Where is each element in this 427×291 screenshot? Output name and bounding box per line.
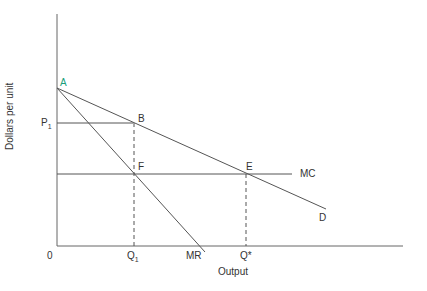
mc-label: MC	[300, 169, 316, 179]
y-axis-label: Dollars per unit	[4, 83, 15, 150]
point-b-label: B	[138, 114, 145, 124]
point-a-label: A	[60, 78, 67, 88]
demand-curve	[57, 88, 326, 209]
p1-tick-label: P1	[41, 118, 52, 130]
point-f-label: F	[138, 162, 144, 172]
mr-curve	[57, 88, 205, 252]
qstar-tick-label: Q*	[240, 251, 252, 261]
mr-label: MR	[186, 251, 202, 261]
point-e-label: E	[246, 162, 253, 172]
d-label: D	[319, 213, 326, 223]
q1-tick-label: Q1	[127, 251, 139, 263]
diagram-canvas	[0, 0, 427, 291]
origin-label: 0	[47, 251, 53, 261]
x-axis-label: Output	[218, 267, 248, 277]
